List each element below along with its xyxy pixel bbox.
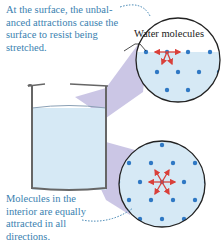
water-molecules-label: Water molecules <box>134 28 204 39</box>
interior-caption: Molecules in the interior are equally at… <box>6 193 106 243</box>
surface-caption: At the surface, the unbal­anced attracti… <box>6 4 124 54</box>
pointer-top <box>120 5 150 16</box>
